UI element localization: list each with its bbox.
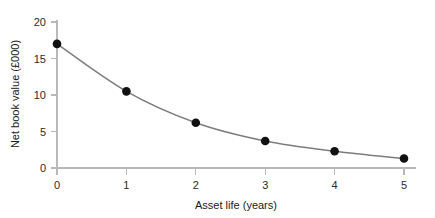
x-tick-label-2: 2 [193,179,199,191]
y-tick-label-15: 15 [34,53,46,65]
data-point-year-0 [53,40,62,49]
data-point-year-4 [330,147,339,156]
x-tick-label-3: 3 [262,179,268,191]
data-point-year-5 [400,154,409,163]
chart-background [0,0,435,218]
data-point-year-3 [261,137,270,146]
data-point-year-1 [122,87,131,96]
x-tick-label-0: 0 [54,179,60,191]
y-tick-label-5: 5 [40,126,46,138]
data-point-year-2 [192,118,201,127]
y-tick-label-10: 10 [34,89,46,101]
x-tick-label-4: 4 [332,179,338,191]
x-tick-label-1: 1 [123,179,129,191]
net-book-value-line-chart: 20 15 10 5 0 0 1 2 3 4 5 Asse [0,0,435,218]
x-tick-label-5: 5 [401,179,407,191]
x-axis-title: Asset life (years) [195,199,277,211]
y-axis-title: Net book value (£000) [9,40,21,148]
y-tick-label-20: 20 [34,16,46,28]
y-tick-label-0: 0 [40,162,46,174]
chart-figure: 20 15 10 5 0 0 1 2 3 4 5 Asse [0,0,435,218]
